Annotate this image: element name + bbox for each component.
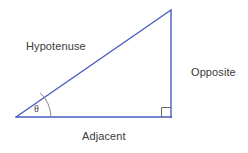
- opposite-label: Opposite: [191, 66, 236, 79]
- trigonometry-diagram: Hypotenuse Opposite Adjacent θ: [0, 0, 248, 153]
- hypotenuse-line: [16, 10, 171, 117]
- hypotenuse-label: Hypotenuse: [26, 40, 86, 53]
- adjacent-label: Adjacent: [82, 130, 126, 143]
- right-angle-marker-icon: [162, 108, 172, 118]
- theta-angle-label: θ: [34, 103, 39, 114]
